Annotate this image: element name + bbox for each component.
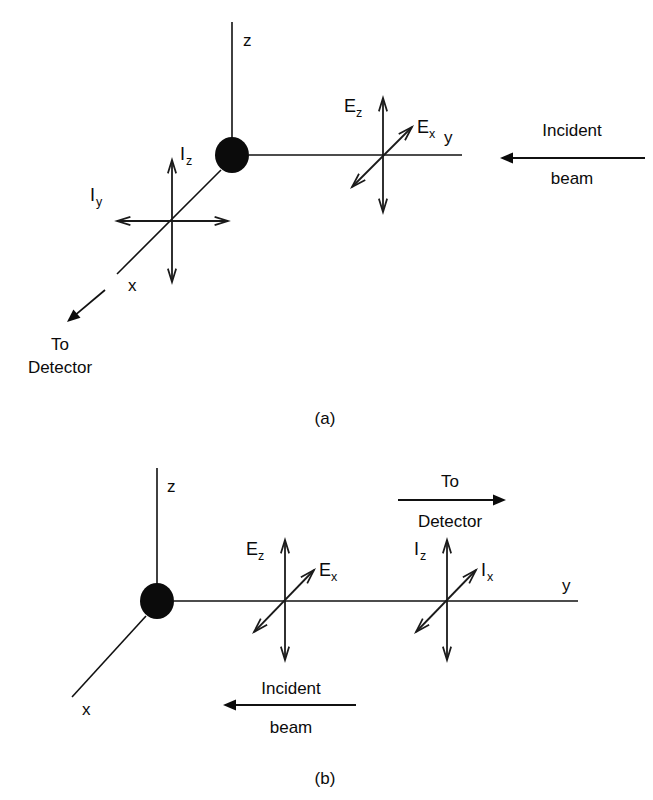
to-detector-arrow-label-line1: To: [51, 335, 69, 354]
incident-beam-arrow-label-line1: Incident: [261, 679, 321, 698]
incident-field-cross-diagonal-label: E: [319, 560, 331, 580]
incident-beam-arrow-label-line2: beam: [270, 718, 313, 737]
scattering-particle: [215, 137, 249, 173]
incident-field-cross-vertical-label: E: [344, 96, 356, 116]
scattered-intensity-cross-horizontal-subscript: y: [96, 195, 103, 209]
scattered-intensity-cross-vertical-label: I: [180, 144, 185, 164]
scattering-geometry-figure: zyxEzExIzIyIncidentbeamToDetector(a) zyx…: [0, 0, 653, 800]
scattered-intensity-cross-diagonal-label: I: [481, 560, 486, 580]
scattered-intensity-cross-vertical-subscript: z: [186, 154, 192, 168]
figure-background: [0, 0, 653, 800]
incident-field-cross-diagonal-subscript: x: [429, 127, 436, 141]
scattering-particle: [140, 583, 174, 619]
incident-field-cross-vertical-label: E: [246, 539, 258, 559]
incident-beam-arrow-label-line2: beam: [551, 169, 594, 188]
axis-z-label: z: [167, 477, 176, 496]
to-detector-arrow-label-line1: To: [441, 472, 459, 491]
panel-b-caption: (b): [315, 769, 336, 788]
axis-x-label: x: [82, 700, 91, 719]
scattered-intensity-cross-vertical-label: I: [414, 539, 419, 559]
axis-z-label: z: [243, 31, 252, 50]
incident-field-cross-vertical-subscript: z: [356, 106, 362, 120]
incident-field-cross-diagonal-label: E: [417, 117, 429, 137]
scattered-intensity-cross-horizontal-label: I: [90, 185, 95, 205]
scattered-intensity-cross-vertical-subscript: z: [420, 549, 426, 563]
incident-beam-arrow-label-line1: Incident: [542, 121, 602, 140]
incident-field-cross-diagonal-subscript: x: [331, 570, 338, 584]
to-detector-arrow-label-line2: Detector: [28, 358, 93, 377]
figure-root: zyxEzExIzIyIncidentbeamToDetector(a) zyx…: [0, 0, 653, 800]
scattered-intensity-cross-diagonal-subscript: x: [487, 570, 494, 584]
axis-y-label: y: [562, 576, 571, 595]
incident-field-cross-vertical-subscript: z: [258, 549, 264, 563]
axis-y-label: y: [444, 128, 453, 147]
to-detector-arrow-label-line2: Detector: [418, 512, 483, 531]
panel-a-caption: (a): [315, 409, 336, 428]
axis-x-label: x: [128, 276, 137, 295]
